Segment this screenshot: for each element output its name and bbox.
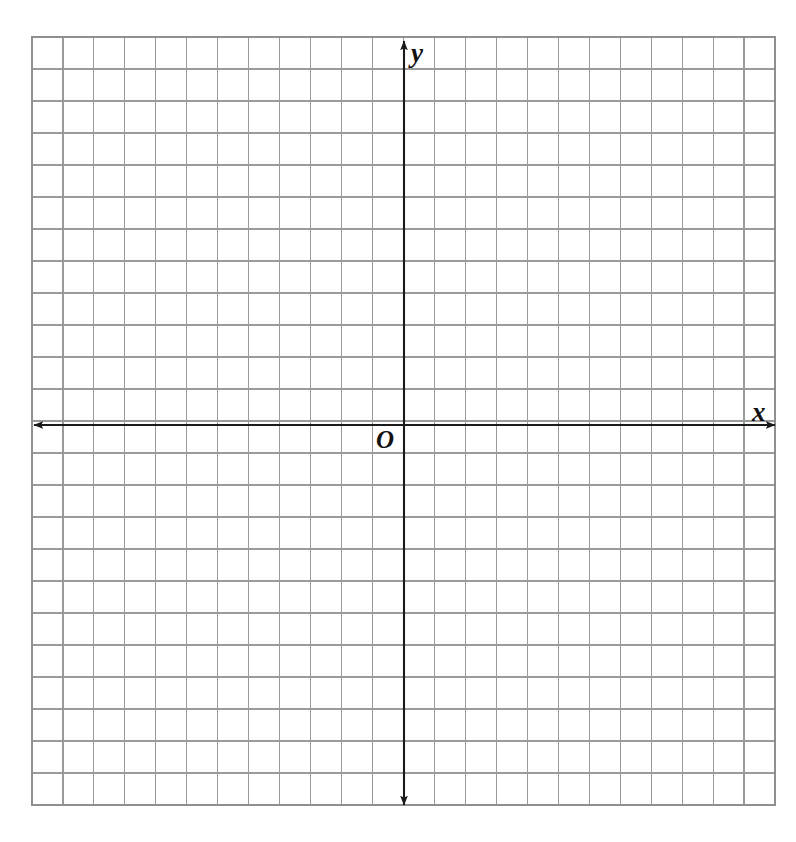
origin-label: O bbox=[376, 427, 394, 452]
worksheet-canvas: y x O bbox=[0, 0, 796, 842]
y-axis-label: y bbox=[411, 40, 423, 67]
coordinate-plane-figure bbox=[0, 0, 796, 842]
x-axis-label: x bbox=[752, 399, 766, 426]
